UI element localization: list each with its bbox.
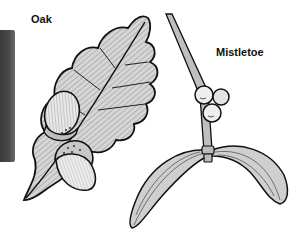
- oak-label: Oak: [31, 14, 52, 25]
- mistletoe-label: Mistletoe: [216, 47, 264, 58]
- illustration-artwork: [0, 0, 298, 238]
- botanical-illustration: Oak Mistletoe: [0, 0, 298, 238]
- mistletoe-node: [202, 146, 214, 162]
- mistletoe-leaf-left: [130, 150, 208, 228]
- acorn-lower: [55, 141, 95, 190]
- mistletoe-stem: [166, 14, 212, 152]
- mistletoe-leaf-right: [212, 146, 287, 204]
